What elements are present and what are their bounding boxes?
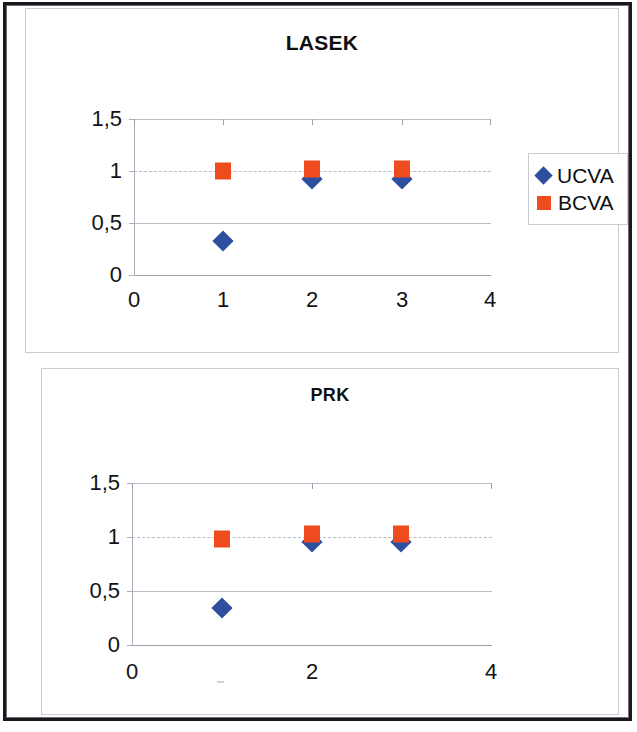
x-tick-2 — [312, 119, 313, 125]
data-point-ucva — [211, 598, 232, 619]
x-label-2: 2 — [292, 659, 332, 685]
gridline-0.5 — [132, 591, 492, 592]
y-tick-0.5 — [127, 591, 133, 592]
x-tick-4 — [491, 483, 492, 489]
y-label-0.5: 0,5 — [89, 578, 120, 604]
x-label-2: 2 — [292, 287, 332, 313]
y-label-1.5: 1,5 — [91, 106, 122, 132]
x-label-1: 1 — [203, 287, 243, 313]
y-tick-0 — [127, 645, 133, 646]
x-tick-2 — [312, 483, 313, 489]
chart-card-lasek: LASEK 1,5 1 0,5 0 0 — [25, 8, 619, 353]
y-label-0.5: 0,5 — [91, 210, 122, 236]
chart-title-lasek: LASEK — [26, 31, 618, 55]
plot-area-prk: 1,5 1 0,5 0 0 2 4 — [132, 483, 492, 645]
legend-label-bcva: BCVA — [558, 192, 614, 213]
square-marker-icon — [537, 196, 551, 210]
gridline-0.5 — [134, 223, 491, 224]
data-point-bcva — [394, 160, 410, 177]
legend-label-ucva: UCVA — [557, 165, 614, 186]
plot-area-lasek: 1,5 1 0,5 0 0 1 2 3 4 — [134, 119, 491, 275]
x-tick-0 — [132, 483, 133, 489]
data-point-bcva — [393, 525, 409, 542]
x-tick-0 — [134, 119, 135, 125]
x-axis-lasek — [134, 275, 491, 276]
data-point-ucva — [212, 230, 233, 251]
chart-card-prk: PRK 1,5 1 0,5 0 0 2 4 — [41, 368, 619, 715]
x-label-0: 0 — [112, 659, 152, 685]
x-label-4: 4 — [471, 659, 511, 685]
data-point-bcva — [304, 160, 320, 177]
legend-lasek: UCVA BCVA — [528, 153, 628, 225]
scanned-page: LASEK 1,5 1 0,5 0 0 — [0, 0, 637, 732]
y-label-0: 0 — [110, 262, 122, 288]
x-label-3: 3 — [382, 287, 422, 313]
chart-title-prk: PRK — [42, 385, 618, 406]
y-tick-1.0 — [127, 537, 133, 538]
x-axis-prk — [132, 645, 492, 646]
y-label-0: 0 — [108, 632, 120, 658]
y-axis-lasek — [134, 119, 135, 275]
y-axis-prk — [132, 483, 133, 645]
y-label-1.0: 1 — [110, 158, 122, 184]
legend-item-ucva[interactable]: UCVA — [537, 162, 617, 189]
x-tick-1 — [223, 119, 224, 125]
diamond-marker-icon — [534, 166, 552, 184]
x-tick-4 — [490, 119, 491, 125]
data-point-bcva — [304, 525, 320, 542]
x-label-0: 0 — [114, 287, 154, 313]
y-tick-0.5 — [129, 223, 135, 224]
x-label-4: 4 — [470, 287, 510, 313]
scan-artifact — [217, 681, 224, 683]
y-label-1.5: 1,5 — [89, 470, 120, 496]
data-point-bcva — [215, 163, 231, 180]
y-tick-0 — [129, 275, 135, 276]
y-label-1.0: 1 — [108, 524, 120, 550]
y-tick-1.0 — [129, 171, 135, 172]
x-tick-3 — [402, 119, 403, 125]
legend-item-bcva[interactable]: BCVA — [537, 189, 617, 216]
data-point-bcva — [214, 531, 230, 548]
